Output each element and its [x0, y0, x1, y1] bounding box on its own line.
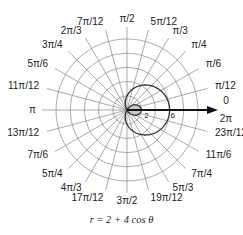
angle-label: π/2 — [119, 13, 135, 24]
angle-label: π — [29, 104, 36, 115]
grid-spoke — [127, 30, 148, 110]
angle-label: 5π/4 — [42, 168, 63, 179]
angle-label: 13π/12 — [7, 127, 39, 138]
grid-spoke — [127, 110, 199, 152]
grid-spoke — [68, 51, 127, 110]
angle-label: π/6 — [206, 58, 222, 69]
polar-plot: π/12π/6π/4π/35π/12π/27π/122π/33π/45π/611… — [0, 0, 243, 215]
grid-spoke — [47, 110, 127, 131]
radius-label-6: 6 — [171, 111, 176, 120]
grid-spoke — [47, 89, 127, 110]
grid-spoke — [68, 110, 127, 169]
angle-label: 17π/12 — [71, 192, 103, 203]
grid-spoke — [127, 51, 186, 110]
angle-label: 7π/4 — [191, 168, 212, 179]
radius-label-2: 2 — [144, 111, 149, 120]
grid-spoke — [127, 38, 169, 110]
angle-label-zero: 0 — [223, 95, 229, 106]
grid-spoke — [86, 38, 128, 110]
grid-spoke — [127, 110, 169, 182]
grid-spoke — [127, 110, 186, 169]
grid-spoke — [55, 110, 127, 152]
grid-spoke — [86, 110, 128, 182]
grid-spoke — [127, 110, 148, 190]
arrowhead-icon — [207, 106, 218, 114]
angle-label: 11π/6 — [206, 149, 232, 160]
grid-spoke — [127, 69, 199, 111]
grid-spoke — [55, 69, 127, 111]
angle-label: 7π/6 — [27, 149, 48, 160]
angle-label: 5π/6 — [27, 58, 48, 69]
angle-label: 5π/3 — [173, 182, 194, 193]
formula-caption: r = 2 + 4 cos θ — [0, 213, 243, 225]
angle-label: 11π/12 — [8, 80, 40, 91]
angle-label: 23π/12 — [215, 127, 243, 138]
grid-spoke — [106, 110, 127, 190]
angle-label: 5π/12 — [151, 16, 178, 27]
angle-label-2pi: 2π — [220, 113, 233, 124]
angle-label: 3π/2 — [117, 195, 138, 206]
formula-text: r = 2 + 4 cos θ — [90, 214, 154, 225]
grid-spoke — [106, 30, 127, 110]
angle-label: 3π/4 — [42, 39, 63, 50]
angle-label: 2π/3 — [61, 25, 82, 36]
angle-label: π/4 — [191, 39, 207, 50]
angle-label: π/12 — [215, 80, 236, 91]
